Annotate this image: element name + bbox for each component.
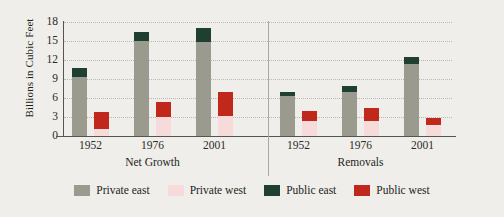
chart-legend: Private eastPrivate westPublic eastPubli… bbox=[0, 184, 504, 196]
segment-private-east bbox=[196, 42, 211, 136]
segment-public-east bbox=[280, 92, 295, 96]
chart-figure: Billions in Cubic Feet 0369121518 195219… bbox=[0, 0, 504, 217]
bar-net-growth-1976-east bbox=[134, 32, 149, 137]
segment-private-west bbox=[218, 116, 233, 136]
segment-public-west bbox=[364, 108, 379, 122]
bar-net-growth-2001-east bbox=[196, 28, 211, 136]
bar-removals-2001-west bbox=[426, 118, 441, 136]
segment-public-east bbox=[134, 32, 149, 42]
plot-area bbox=[64, 22, 452, 136]
segment-private-east bbox=[134, 41, 149, 136]
legend-item-public-east: Public east bbox=[264, 184, 336, 196]
segment-public-west bbox=[156, 102, 171, 117]
segment-public-east bbox=[196, 28, 211, 42]
y-tick-label-18: 18 bbox=[6, 16, 58, 28]
segment-public-east bbox=[342, 86, 357, 92]
bar-removals-1952-west bbox=[302, 111, 317, 136]
segment-private-east bbox=[72, 77, 87, 136]
y-tick-label-3: 3 bbox=[6, 111, 58, 123]
segment-private-west bbox=[156, 117, 171, 136]
bar-removals-1976-west bbox=[364, 108, 379, 137]
x-tick-label-removals-2001: 2001 bbox=[383, 139, 463, 151]
gridline-6 bbox=[64, 98, 452, 99]
legend-label: Public east bbox=[286, 184, 336, 196]
bar-net-growth-1976-west bbox=[156, 102, 171, 136]
bar-removals-1952-east bbox=[280, 92, 295, 136]
panel-title-removals: Removals bbox=[286, 156, 436, 168]
segment-private-west bbox=[94, 129, 109, 136]
segment-private-east bbox=[404, 64, 419, 136]
segment-private-west bbox=[302, 121, 317, 136]
segment-public-west bbox=[302, 111, 317, 122]
segment-public-west bbox=[218, 92, 233, 117]
gridline-18 bbox=[64, 22, 452, 23]
legend-swatch-icon bbox=[354, 185, 370, 196]
bar-net-growth-1952-west bbox=[94, 112, 109, 136]
legend-item-private-west: Private west bbox=[168, 184, 247, 196]
segment-private-east bbox=[342, 92, 357, 136]
segment-private-east bbox=[280, 96, 295, 136]
y-tick-label-15: 15 bbox=[6, 35, 58, 47]
segment-public-west bbox=[94, 112, 109, 129]
panel-divider bbox=[268, 21, 269, 176]
gridline-15 bbox=[64, 41, 452, 42]
bar-removals-2001-east bbox=[404, 57, 419, 136]
segment-public-east bbox=[404, 57, 419, 64]
bar-net-growth-1952-east bbox=[72, 68, 87, 136]
legend-label: Private east bbox=[96, 184, 149, 196]
bar-net-growth-2001-west bbox=[218, 92, 233, 136]
legend-swatch-icon bbox=[74, 185, 90, 196]
legend-item-private-east: Private east bbox=[74, 184, 149, 196]
legend-label: Private west bbox=[190, 184, 247, 196]
bar-removals-1976-east bbox=[342, 86, 357, 136]
segment-public-west bbox=[426, 118, 441, 125]
legend-label: Public west bbox=[376, 184, 429, 196]
segment-private-west bbox=[364, 121, 379, 136]
panel-title-net-growth: Net Growth bbox=[78, 156, 228, 168]
y-tick-label-9: 9 bbox=[6, 73, 58, 85]
legend-item-public-west: Public west bbox=[354, 184, 429, 196]
y-tick-label-12: 12 bbox=[6, 54, 58, 66]
gridline-12 bbox=[64, 60, 452, 61]
segment-public-east bbox=[72, 68, 87, 77]
gridline-3 bbox=[64, 117, 452, 118]
segment-private-west bbox=[426, 125, 441, 136]
x-axis-line bbox=[56, 136, 456, 137]
y-tick-label-6: 6 bbox=[6, 92, 58, 104]
legend-swatch-icon bbox=[168, 185, 184, 196]
y-axis-line bbox=[63, 21, 64, 137]
x-tick-label-net-growth-2001: 2001 bbox=[175, 139, 255, 151]
gridline-9 bbox=[64, 79, 452, 80]
legend-swatch-icon bbox=[264, 185, 280, 196]
